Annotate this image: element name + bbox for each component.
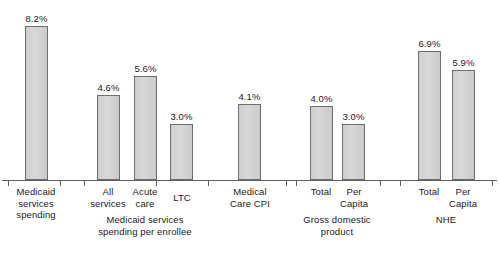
bar: 4.0% — [310, 106, 333, 180]
bar: 5.9% — [452, 70, 475, 180]
bar: 5.6% — [134, 76, 157, 180]
bar-rect — [25, 26, 48, 180]
bar: 8.2% — [25, 26, 48, 180]
bar: 3.0% — [170, 124, 193, 180]
bar-value-label: 6.9% — [418, 38, 440, 49]
bar-rect — [97, 95, 120, 180]
tick-label: PerCapita — [418, 186, 499, 209]
bar-rect — [170, 124, 193, 180]
group-label: NHE — [376, 214, 499, 226]
bar: 3.0% — [342, 124, 365, 180]
bar-chart: 8.2%4.6%5.6%3.0%4.1%4.0%3.0%6.9%5.9% Med… — [0, 0, 499, 253]
bar-rect — [418, 51, 441, 180]
bar-rect — [452, 70, 475, 180]
bar-value-label: 3.0% — [342, 111, 364, 122]
bar-value-label: 8.2% — [25, 13, 47, 24]
bar-value-label: 3.0% — [170, 111, 192, 122]
bar-rect — [134, 76, 157, 180]
bar-value-label: 4.0% — [310, 93, 332, 104]
bar-value-label: 5.9% — [452, 57, 474, 68]
group-label: Medicaid servicesspending per enrollee — [75, 214, 215, 237]
bar-value-label: 4.1% — [238, 91, 260, 102]
bar-rect — [310, 106, 333, 180]
bar-value-label: 4.6% — [97, 82, 119, 93]
bar: 4.1% — [238, 104, 261, 180]
x-axis-labels: MedicaidservicesspendingAllservicesAcute… — [0, 186, 499, 253]
bar-value-label: 5.6% — [134, 63, 156, 74]
bar: 6.9% — [418, 51, 441, 180]
bar-rect — [238, 104, 261, 180]
bar-rect — [342, 124, 365, 180]
x-axis-line — [2, 180, 497, 181]
bar: 4.6% — [97, 95, 120, 180]
